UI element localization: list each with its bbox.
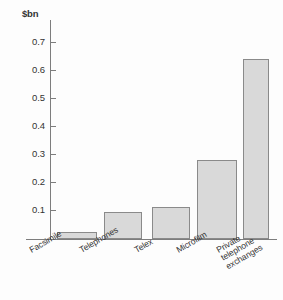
y-axis-tick-mark <box>50 70 56 71</box>
y-axis-tick-label: 0.1 <box>0 204 45 215</box>
y-axis-tick-mark <box>50 154 56 155</box>
y-axis-tick-label: 0.7 <box>0 36 45 47</box>
y-axis-tick-label: 0.5 <box>0 92 45 103</box>
y-axis-tick-label: 0.4 <box>0 120 45 131</box>
y-axis-line <box>50 20 51 240</box>
y-axis-unit-label: $bn <box>22 8 38 19</box>
bar <box>243 59 269 239</box>
y-axis-tick-mark <box>50 182 56 183</box>
bar-chart: $bn 0.10.20.30.40.50.60.7 FacsimileTelep… <box>0 0 283 300</box>
y-axis-tick-mark <box>50 126 56 127</box>
bar <box>197 160 237 239</box>
bar <box>152 207 190 239</box>
y-axis-tick-mark <box>50 210 56 211</box>
y-axis-tick-mark <box>50 42 56 43</box>
y-axis-tick-mark <box>50 98 56 99</box>
y-axis-tick-label: 0.2 <box>0 176 45 187</box>
y-axis-tick-label: 0.6 <box>0 64 45 75</box>
category-label: Facsimile <box>28 229 63 255</box>
category-label: Telephones <box>78 226 120 256</box>
y-axis-tick-label: 0.3 <box>0 148 45 159</box>
